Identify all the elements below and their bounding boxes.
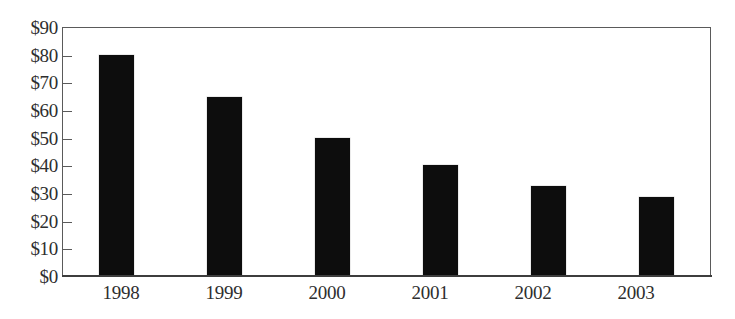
y-axis-tick-mark [63, 249, 72, 250]
x-axis-tick-label: 2003 [617, 283, 654, 303]
bar [99, 55, 134, 275]
bar [423, 165, 458, 275]
y-axis-tick-mark [63, 56, 72, 57]
y-axis-tick-mark [63, 222, 72, 223]
y-axis-tick-label: $10 [4, 239, 58, 258]
y-axis-tick-label: $70 [4, 73, 58, 92]
bar [315, 138, 350, 275]
y-axis-tick-mark [63, 166, 72, 167]
y-axis-tick-mark [63, 83, 72, 84]
y-axis-tick-label: $80 [4, 46, 58, 65]
bar [207, 97, 242, 275]
y-axis-tick-label: $40 [4, 156, 58, 175]
y-axis-tick-mark [63, 194, 72, 195]
x-axis-tick-label: 2001 [411, 283, 448, 303]
x-axis-tick-label: 1998 [102, 283, 139, 303]
x-axis-tick-label: 1999 [205, 283, 242, 303]
bar [639, 197, 674, 275]
y-axis-tick-mark [63, 139, 72, 140]
y-axis-tick-label: $20 [4, 212, 58, 231]
x-axis-tick-label: 2000 [308, 283, 345, 303]
x-axis-tick-label: 2002 [514, 283, 551, 303]
y-axis-tick-label: $60 [4, 101, 58, 120]
y-axis-tick-label: $50 [4, 129, 58, 148]
y-axis-tick-label: $30 [4, 184, 58, 203]
bar [531, 186, 566, 275]
y-axis-tick-label: $0 [4, 267, 58, 286]
plot-area [62, 27, 711, 276]
y-axis-tick-label: $90 [4, 18, 58, 37]
bar-chart: $90 $80 $70 $60 $50 $40 $30 $20 $10 $0 1… [0, 0, 735, 319]
y-axis-tick-mark [63, 111, 72, 112]
